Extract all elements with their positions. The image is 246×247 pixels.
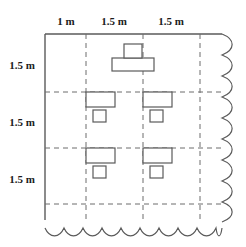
left-dimension-label-2: 1.5 m bbox=[9, 116, 35, 128]
break-line-bottom bbox=[45, 228, 222, 236]
student-desk-row2-col2-desk bbox=[143, 148, 172, 163]
top-dimension-label-1: 1 m bbox=[57, 15, 74, 27]
student-desk-row1-col2[interactable] bbox=[143, 92, 172, 122]
student-desk-row2-col1-chair bbox=[93, 166, 106, 178]
teacher-desk-chair bbox=[124, 44, 142, 58]
student-desk-row2-col1[interactable] bbox=[86, 148, 115, 178]
teacher-desk-desk bbox=[112, 58, 154, 71]
student-desk-row1-col2-chair bbox=[150, 110, 163, 122]
student-desk-row2-col2[interactable] bbox=[143, 148, 172, 178]
student-desk-row1-col1-chair bbox=[93, 110, 106, 122]
floor-plan-svg: 1 m1.5 m1.5 m1.5 m1.5 m1.5 m bbox=[0, 0, 246, 247]
left-dimension-label-3: 1.5 m bbox=[9, 173, 35, 185]
student-desk-row1-col1[interactable] bbox=[86, 92, 115, 122]
student-desk-row1-col1-desk bbox=[86, 92, 115, 107]
teacher-desk[interactable] bbox=[112, 44, 154, 71]
top-dimension-label-2: 1.5 m bbox=[101, 15, 127, 27]
top-dimension-label-3: 1.5 m bbox=[158, 15, 184, 27]
student-desk-row2-col1-desk bbox=[86, 148, 115, 163]
student-desk-row2-col2-chair bbox=[150, 166, 163, 178]
break-line-right bbox=[222, 34, 232, 222]
left-dimension-label-1: 1.5 m bbox=[9, 59, 35, 71]
student-desk-row1-col2-desk bbox=[143, 92, 172, 107]
classroom-floor-plan: 1 m1.5 m1.5 m1.5 m1.5 m1.5 m bbox=[0, 0, 246, 247]
